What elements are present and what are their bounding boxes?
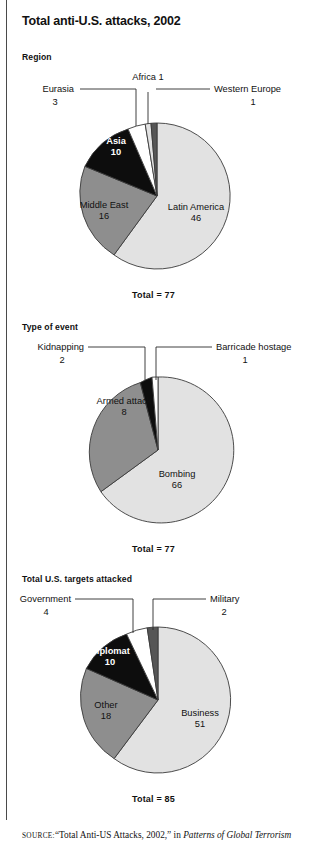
total-region: Total = 77 <box>0 290 311 300</box>
leader-lines-event <box>88 347 212 380</box>
pie-chart-region: Eurasia 3 Africa 1 Western Europe 1 Asia… <box>0 62 315 312</box>
label-barricade-name: Barricade hostage <box>216 342 291 352</box>
label-military-name: Military <box>210 594 240 604</box>
source-keyword: SOURCE: <box>22 831 55 840</box>
source-publication-title: Patterns of Global Terrorism <box>183 830 291 840</box>
pie-region-svg: Eurasia 3 Africa 1 Western Europe 1 Asia… <box>0 62 315 312</box>
label-eurasia-value: 3 <box>52 97 57 107</box>
label-diplomat-value: 10 <box>105 657 115 667</box>
section-heading-region: Region <box>22 52 52 62</box>
label-bombing-value: 66 <box>172 480 182 490</box>
pie-chart-targets: Government 4 Military 2 Diplomat 10 Othe… <box>0 584 315 834</box>
section-heading-event: Type of event <box>22 322 78 332</box>
label-military-value: 2 <box>221 607 226 617</box>
section-heading-targets: Total U.S. targets attacked <box>22 574 132 584</box>
label-other-value: 18 <box>101 711 111 721</box>
label-kidnapping-value: 2 <box>59 355 64 365</box>
label-business-name: Business <box>181 708 219 718</box>
label-middle-east-name: Middle East <box>80 200 129 210</box>
label-asia-value: 10 <box>111 147 121 157</box>
label-middle-east-value: 16 <box>99 211 109 221</box>
label-armed-attack-value: 8 <box>121 407 126 417</box>
label-western-europe-name: Western Europe <box>214 84 281 94</box>
label-diplomat-name: Diplomat <box>90 646 130 656</box>
label-africa-name: Africa 1 <box>132 72 164 82</box>
label-western-europe-value: 1 <box>250 97 255 107</box>
leader-lines-region <box>80 89 210 126</box>
source-connector: in <box>174 830 181 840</box>
source-quoted-title: “Total Anti-US Attacks, 2002,” <box>55 830 171 840</box>
source-note: SOURCE:“Total Anti-US Attacks, 2002,” in… <box>22 830 307 842</box>
label-eurasia-name: Eurasia <box>42 84 74 94</box>
leader-lines-targets <box>75 599 206 633</box>
label-bombing-name: Bombing <box>159 469 196 479</box>
label-government-name: Government <box>20 594 72 604</box>
page-title: Total anti-U.S. attacks, 2002 <box>22 14 181 28</box>
label-kidnapping-name: Kidnapping <box>37 342 84 352</box>
total-event: Total = 77 <box>0 544 311 554</box>
label-armed-attack-name: Armed attack <box>97 396 152 406</box>
document-page: Total anti-U.S. attacks, 2002 Region <box>0 0 315 853</box>
pie-chart-event: Kidnapping 2 Barricade hostage 1 Armed a… <box>0 332 315 582</box>
label-other-name: Other <box>94 700 117 710</box>
label-latin-america-value: 46 <box>191 213 201 223</box>
label-business-value: 51 <box>195 719 205 729</box>
label-asia-name: Asia <box>106 136 126 146</box>
total-targets: Total = 85 <box>0 794 311 804</box>
label-barricade-value: 1 <box>242 355 247 365</box>
label-government-value: 4 <box>43 607 48 617</box>
label-latin-america-name: Latin America <box>168 202 225 212</box>
